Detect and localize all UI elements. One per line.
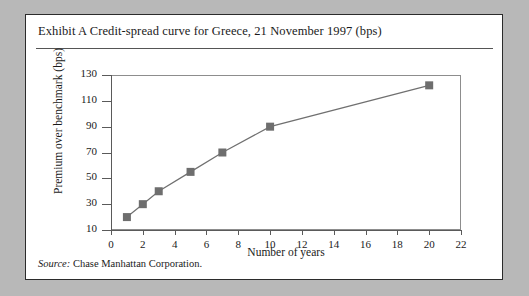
- series-line: [127, 85, 429, 217]
- page-title: Exhibit A Credit-spread curve for Greece…: [38, 24, 382, 39]
- exhibit-panel: Exhibit A Credit-spread curve for Greece…: [25, 14, 503, 280]
- source-label: Source:: [38, 258, 70, 269]
- series-credit-spread: [36, 55, 494, 253]
- data-point-marker: [187, 168, 195, 176]
- data-point-marker: [425, 81, 433, 89]
- data-point-marker: [139, 200, 147, 208]
- chart-plot-area: 1030507090110130 0246810121416182022 Pre…: [36, 55, 494, 253]
- data-point-marker: [155, 187, 163, 195]
- source-note: Source: Chase Manhattan Corporation.: [38, 258, 202, 269]
- data-point-marker: [123, 213, 131, 221]
- source-value: Chase Manhattan Corporation.: [70, 258, 202, 269]
- data-point-marker: [218, 149, 226, 157]
- data-point-marker: [266, 123, 274, 131]
- title-divider: [36, 48, 493, 49]
